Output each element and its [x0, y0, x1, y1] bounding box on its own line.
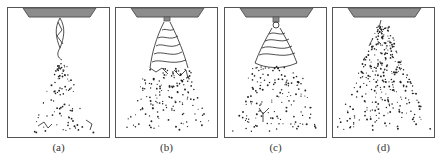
- nozzle-icon: [131, 8, 204, 17]
- nozzle-icon: [240, 8, 313, 17]
- panel-label-a: (a): [7, 141, 110, 153]
- spray-illustration-a: [8, 8, 111, 139]
- spray-illustration-c: [225, 8, 328, 139]
- panel-label-d: (d): [332, 141, 435, 153]
- panel-b: [115, 7, 218, 138]
- spray-illustration-b: [116, 8, 219, 139]
- panel-a: [7, 7, 110, 138]
- nozzle-icon: [23, 8, 96, 17]
- spray-illustration-d: [333, 8, 436, 139]
- panel-d: [332, 7, 435, 138]
- panel-label-c: (c): [224, 141, 327, 153]
- nozzle-icon: [348, 8, 421, 17]
- panel-c: [224, 7, 327, 138]
- panel-label-b: (b): [115, 141, 218, 153]
